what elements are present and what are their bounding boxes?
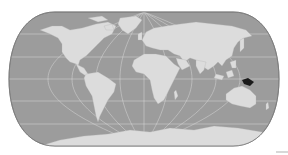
scale-bar <box>276 151 288 153</box>
world-map <box>0 0 288 155</box>
